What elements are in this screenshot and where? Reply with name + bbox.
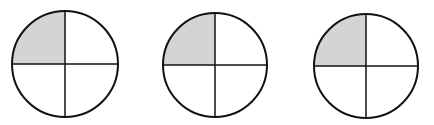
fraction-circle-1 [12, 11, 118, 117]
fraction-circles-diagram [0, 0, 434, 125]
fraction-circle-3 [314, 14, 418, 118]
fraction-circle-2 [163, 13, 267, 117]
